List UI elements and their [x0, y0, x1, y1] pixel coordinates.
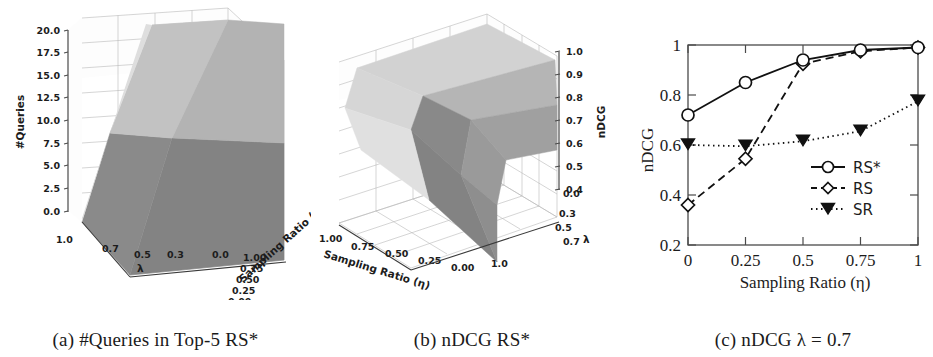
- y-tick-label-3: 0.8: [660, 86, 681, 105]
- x-tick-b-1: 0.75: [351, 241, 374, 252]
- legend-marker-RS: [823, 183, 834, 194]
- marker-SR-4: [912, 95, 925, 106]
- z-tick-a-4: 10.0: [37, 115, 61, 126]
- x-tick-a-3: 0.3: [167, 249, 184, 260]
- y-tick-b-1: 0.7: [563, 236, 580, 247]
- z-axis-label-b: nDCG: [595, 106, 607, 139]
- z-tick-a-0: 0.0: [43, 206, 60, 217]
- caption-b: (b) nDCG RS*: [311, 329, 633, 351]
- y-tick-b-3: 0.3: [559, 208, 576, 219]
- x-axis-label: Sampling Ratio (η): [740, 273, 871, 292]
- x-axis-label-a: λ: [137, 262, 144, 274]
- x-tick-b-0: 1.00: [319, 233, 343, 244]
- marker-SR-2: [797, 135, 810, 146]
- x-tick-b-2: 0.50: [385, 248, 409, 259]
- z-tick-a-5: 12.5: [37, 92, 60, 103]
- x-tick-label-0: 0: [684, 251, 693, 270]
- y-tick-b-2: 0.5: [555, 222, 572, 233]
- panel-a-plot: 0.0 2.5 5.0 7.5 10.0 12.5 15.0 17.5 20.0…: [0, 0, 311, 300]
- legend-marker-RS-star: [823, 162, 834, 173]
- z-tick-a-8: 20.0: [37, 25, 61, 36]
- y-tick-label-2: 0.6: [660, 136, 681, 155]
- y-axis-label-b: λ: [583, 233, 590, 245]
- figure-container: 0.0 2.5 5.0 7.5 10.0 12.5 15.0 17.5 20.0…: [0, 0, 933, 357]
- marker-SR-1: [739, 140, 752, 151]
- legend-entry-SR[interactable]: SR: [811, 201, 873, 219]
- x-tick-label-2: 0.5: [792, 251, 813, 270]
- panel-a: 0.0 2.5 5.0 7.5 10.0 12.5 15.0 17.5 20.0…: [0, 0, 311, 357]
- x-tick-a-4: 0.0: [212, 249, 229, 260]
- legend-entry-RS-star[interactable]: RS*: [811, 159, 881, 177]
- series-SR: [682, 95, 925, 151]
- x-tick-b-4: 0.00: [451, 262, 475, 273]
- legend-marker-SR: [822, 204, 835, 215]
- z-tick-b-1: 0.5: [566, 161, 583, 172]
- x-tick-a-2: 0.5: [134, 249, 151, 260]
- surface-plot-a: 0.0 2.5 5.0 7.5 10.0 12.5 15.0 17.5 20.0…: [0, 0, 311, 300]
- marker-RSstar-0: [682, 109, 694, 121]
- x-tick-label-3: 0.75: [846, 251, 876, 270]
- z-tick-b-2: 0.6: [566, 138, 583, 149]
- legend-label-RS-star: RS*: [853, 159, 881, 177]
- marker-SR-0: [682, 139, 695, 150]
- y-tick-b-4: 0.0: [563, 188, 580, 199]
- marker-RSstar-1: [740, 77, 752, 89]
- x-tick-label-4: 1: [914, 251, 923, 270]
- z-tick-a-2: 5.0: [43, 160, 60, 171]
- z-tick-a-3: 7.5: [43, 138, 60, 149]
- marker-RSstar-4: [912, 42, 924, 54]
- y-tick-b-0: 1.0: [491, 258, 508, 269]
- line-chart-c: 1 0.8 0.6 0.4 0.2 0 0.25 0.5 0.75 1 Samp…: [633, 0, 933, 300]
- x-tick-a-0: 1.0: [56, 234, 73, 245]
- caption-c-text: (c) nDCG λ = 0.7: [715, 329, 852, 350]
- z-tick-b-6: 1.0: [566, 46, 583, 57]
- marker-SR-3: [854, 125, 867, 136]
- y-tick-label-1: 0.4: [660, 186, 682, 205]
- y-tick-a-4: 0.00: [228, 296, 252, 300]
- z-axis-a: [64, 30, 68, 212]
- panel-b: 0.4 0.5 0.6 0.7 0.8 0.9 1.0 nDCG 1.00 0.…: [311, 0, 633, 357]
- legend-label-RS: RS: [853, 180, 873, 198]
- y-tick-label-4: 1: [673, 36, 682, 55]
- z-axis-label-a: #Queries: [14, 95, 26, 149]
- series-RS-star: [682, 42, 924, 122]
- z-tick-a-6: 15.0: [37, 70, 61, 81]
- caption-a: (a) #Queries in Top-5 RS*: [0, 329, 311, 351]
- panel-b-plot: 0.4 0.5 0.6 0.7 0.8 0.9 1.0 nDCG 1.00 0.…: [311, 0, 633, 300]
- x-axis-label-b: Sampling Ratio (η): [322, 247, 431, 291]
- legend-entry-RS[interactable]: RS: [811, 180, 873, 198]
- panel-c-plot: 1 0.8 0.6 0.4 0.2 0 0.25 0.5 0.75 1 Samp…: [633, 0, 933, 300]
- panel-c: 1 0.8 0.6 0.4 0.2 0 0.25 0.5 0.75 1 Samp…: [633, 0, 933, 357]
- z-tick-b-5: 0.9: [566, 69, 583, 80]
- x-tick-a-1: 0.7: [102, 243, 119, 254]
- z-tick-b-3: 0.7: [566, 115, 583, 126]
- marker-RSstar-3: [855, 44, 867, 56]
- x-tick-label-1: 0.25: [731, 251, 761, 270]
- marker-RSstar-2: [797, 54, 809, 66]
- legend: RS* RS SR: [811, 159, 881, 219]
- z-tick-b-4: 0.8: [566, 92, 583, 103]
- z-tick-a-7: 17.5: [37, 47, 60, 58]
- surface-plot-b: 0.4 0.5 0.6 0.7 0.8 0.9 1.0 nDCG 1.00 0.…: [311, 0, 633, 300]
- y-tick-label-0: 0.2: [660, 236, 681, 255]
- y-axis-label: nDCG: [638, 128, 657, 172]
- caption-c: (c) nDCG λ = 0.7: [633, 329, 933, 351]
- legend-label-SR: SR: [853, 201, 873, 219]
- y-tick-a-3: 0.25: [232, 285, 255, 296]
- z-tick-a-1: 2.5: [43, 183, 60, 194]
